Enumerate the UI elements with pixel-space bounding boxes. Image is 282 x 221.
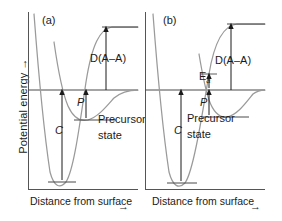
- panel-a: (a) D(A–A) C P Precursor state: [28, 12, 138, 190]
- panel-b-dissociation-energy-symbol: D: [215, 54, 223, 66]
- panel-b-dissociation-energy-rest: (A–A): [223, 54, 251, 66]
- potential-energy-diagram-figure: Potential energy →: [0, 0, 282, 221]
- panel-b-chemisorption-energy-label: C: [174, 124, 182, 136]
- panel-b-dissociation-energy-label: D(A–A): [215, 54, 251, 66]
- panel-b-precursor-state-label-line1: Precursor: [187, 112, 235, 124]
- panel-a-tag: (a): [42, 14, 55, 26]
- panel-a-chemisorption-energy-label: C: [55, 124, 63, 136]
- panel-a-x-axis-label: Distance from surface: [30, 195, 132, 207]
- panel-a-dissociation-energy-label: D(A–A): [90, 52, 126, 64]
- panel-b: (b) D(A–A) C Ea P Precursor state: [145, 12, 265, 190]
- panel-b-precursor-depth-label: P: [200, 96, 207, 108]
- panel-b-x-axis-arrow-icon: →: [250, 200, 261, 212]
- panel-b-precursor-state-label-line2: state: [187, 128, 211, 140]
- panel-b-activation-energy-subscript: a: [206, 76, 210, 85]
- panel-a-dissociation-energy-symbol: D: [90, 52, 98, 64]
- panel-a-precursor-state-label-line2: state: [98, 129, 122, 141]
- panel-a-dissociation-energy-rest: (A–A): [98, 52, 126, 64]
- panel-b-x-axis-label: Distance from surface: [152, 195, 254, 207]
- panel-b-tag: (b): [163, 14, 176, 26]
- panel-a-precursor-depth-label: P: [77, 96, 84, 108]
- panel-a-precursor-state-label-line1: Precursor: [98, 113, 146, 125]
- panel-a-x-axis-arrow-icon: →: [118, 200, 129, 212]
- panel-b-activation-energy-label: Ea: [199, 70, 211, 85]
